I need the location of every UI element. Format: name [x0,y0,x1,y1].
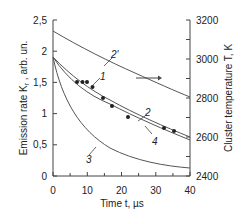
y-tick-label: 0,5 [33,139,47,150]
curve-label-2-prime: 2' [110,49,120,60]
y-tick-label: 1 [41,108,47,119]
x-tick-label: 30 [150,185,162,196]
curve-2-prime [53,31,190,97]
y-tick-label: 2 [41,46,47,57]
y-axis-title: Emission rate Kr , arb. un. [18,41,30,156]
curve-2 [53,57,190,137]
y-tick-label: 1,5 [33,77,47,88]
x-tick-label: 40 [184,185,196,196]
arrow-head-icon [158,76,162,81]
x-ticks [53,172,190,176]
y2-ticks [186,20,190,176]
curve-label-2: 2 [144,107,151,118]
y2-tick-label: 2600 [196,132,219,143]
curve-label-1: 1 [100,71,106,82]
y-tick-label: 0 [41,171,47,182]
curve-4 [53,57,190,140]
x-axis-title: Time t, µs [100,198,144,209]
curve-label-4: 4 [152,136,158,147]
y2-tick-label: 2800 [196,93,219,104]
x-tick-label: 20 [116,185,128,196]
x-tick-label: 10 [82,185,94,196]
curve-label-3: 3 [86,154,92,165]
x-tick-label: 0 [50,185,56,196]
y2-tick-label: 3000 [196,54,219,65]
y2-tick-label: 3200 [196,15,219,26]
y2-tick-label: 2400 [196,171,219,182]
y2-axis-title: Cluster temperature T, K [223,44,234,153]
chart: 0 0,5 1 1,5 2 2,5 2400 2600 2800 3000 32… [0,0,243,224]
y-tick-label: 2,5 [33,15,47,26]
y-ticks [53,20,57,176]
curve-3 [53,57,190,168]
